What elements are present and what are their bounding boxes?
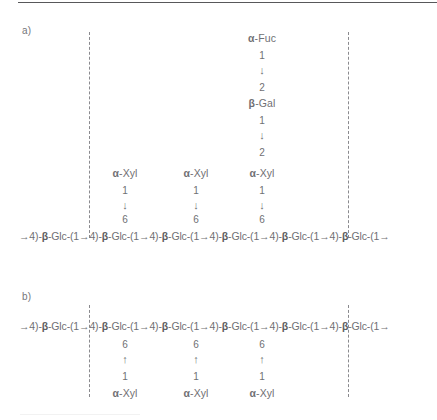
linkage-number: 6 [122,214,128,225]
linkage-number: 1 [193,371,199,382]
up-arrow-icon: ↑ [122,354,128,365]
linkage-number: 6 [259,339,265,350]
up-arrow-icon: ↑ [259,354,265,365]
residue-alpha-xyl: α-Xyl [249,388,274,399]
linkage-number: 6 [193,339,199,350]
panel-a-label: a) [22,25,31,36]
footer-faint-mark [20,414,140,415]
linkage-number: 1 [259,50,265,61]
linkage-number: 1 [259,185,265,196]
panel-b-label: b) [22,291,31,302]
top-divider-rule [18,2,437,3]
repeat-bracket-right-a [348,32,349,238]
backbone-text: →4)-β-Glc-(1→4)-β-Glc-(1→4)-β-Glc-(1→4)-… [19,320,390,332]
residue-alpha-xyl: α-Xyl [249,168,274,179]
linkage-number: 2 [259,82,265,93]
down-arrow-icon: ↓ [193,200,199,211]
residue-alpha-xyl: α-Xyl [183,168,208,179]
up-arrow-icon: ↑ [193,354,199,365]
repeat-bracket-left-b [89,305,90,397]
linkage-number: 2 [259,147,265,158]
down-arrow-icon: ↓ [259,65,265,76]
linkage-number: 1 [259,371,265,382]
linkage-number: 6 [259,214,265,225]
linkage-number: 1 [259,115,265,126]
residue-alpha-xyl: α-Xyl [112,168,137,179]
linkage-number: 1 [122,185,128,196]
residue-alpha-fuc: α-Fuc [248,33,276,44]
residue-beta-gal: β-Gal [249,98,276,109]
linkage-number: 1 [122,371,128,382]
down-arrow-icon: ↓ [259,200,265,211]
down-arrow-icon: ↓ [259,130,265,141]
repeat-bracket-left-a [89,32,90,238]
linkage-number: 1 [193,185,199,196]
linkage-number: 6 [193,214,199,225]
residue-alpha-xyl: α-Xyl [112,388,137,399]
residue-alpha-xyl: α-Xyl [183,388,208,399]
repeat-bracket-right-b [348,305,349,397]
linkage-number: 6 [122,339,128,350]
down-arrow-icon: ↓ [122,200,128,211]
backbone-chain-a: →4)-β-Glc-(1→4)-β-Glc-(1→4)-β-Glc-(1→4)-… [19,230,390,242]
backbone-chain-b: →4)-β-Glc-(1→4)-β-Glc-(1→4)-β-Glc-(1→4)-… [19,320,390,332]
backbone-text: →4)-β-Glc-(1→4)-β-Glc-(1→4)-β-Glc-(1→4)-… [19,230,390,242]
